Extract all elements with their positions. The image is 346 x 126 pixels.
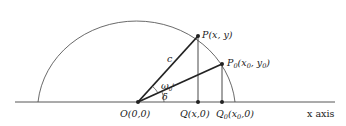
label-p0: P0(x0, y0) bbox=[226, 57, 270, 70]
point-q bbox=[196, 100, 200, 104]
label-c: c bbox=[167, 53, 173, 64]
label-delta: δ bbox=[162, 91, 168, 102]
label-q: Q(x,0) bbox=[180, 108, 210, 119]
point-p bbox=[196, 34, 200, 38]
point-p0 bbox=[220, 62, 224, 66]
label-origin: O(0,0) bbox=[120, 108, 151, 119]
label-q0: Q0(x0,0) bbox=[216, 108, 254, 121]
omega-angle-arc bbox=[152, 86, 158, 93]
point-origin bbox=[136, 100, 140, 104]
radius-op0 bbox=[138, 64, 222, 102]
diagram: P(x, y) P0(x0, y0) c ω0t δ O(0,0) Q(x,0)… bbox=[0, 0, 346, 126]
label-omega-t: ω0t bbox=[161, 80, 175, 92]
radius-op bbox=[138, 36, 198, 102]
label-x-axis: x axis bbox=[307, 108, 334, 119]
point-q0 bbox=[220, 100, 224, 104]
label-p: P(x, y) bbox=[201, 29, 233, 40]
